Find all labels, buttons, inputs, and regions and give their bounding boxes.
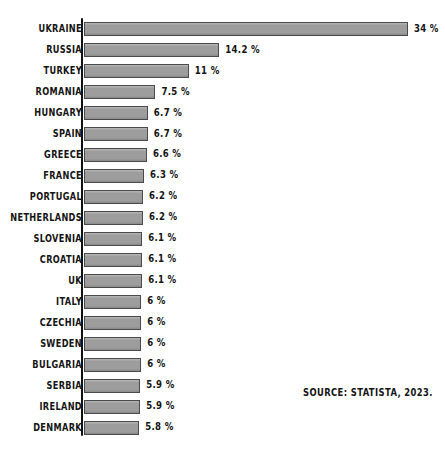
bar-turkey bbox=[84, 64, 189, 78]
bar-fill bbox=[84, 295, 141, 309]
bar-fill bbox=[84, 211, 143, 225]
bar-portugal bbox=[84, 190, 143, 204]
value-label: 14.2 % bbox=[225, 37, 260, 62]
source-annotation: SOURCE: STATISTA, 2023. bbox=[303, 386, 433, 398]
bar-fill bbox=[84, 316, 141, 330]
bar-fill bbox=[84, 64, 189, 78]
bar-fill bbox=[84, 148, 147, 162]
bar-netherlands bbox=[84, 211, 143, 225]
bar-hungary bbox=[84, 106, 148, 120]
bar-fill bbox=[84, 379, 140, 393]
bar-fill bbox=[84, 106, 148, 120]
bar-uk bbox=[84, 274, 142, 288]
bar-france bbox=[84, 169, 144, 183]
chart-plot-area: UKRAINE34 %RUSSIA14.2 %TURKEY11 %ROMANIA… bbox=[0, 18, 445, 418]
bar-fill bbox=[84, 274, 142, 288]
bar-chart: UKRAINE34 %RUSSIA14.2 %TURKEY11 %ROMANIA… bbox=[0, 0, 445, 458]
bar-fill bbox=[84, 232, 142, 246]
bar-fill bbox=[84, 85, 155, 99]
category-label: DENMARK bbox=[33, 415, 82, 441]
bar-fill bbox=[84, 253, 142, 267]
bar-fill bbox=[84, 421, 139, 435]
bar-fill bbox=[84, 337, 141, 351]
bar-bulgaria bbox=[84, 358, 141, 372]
bar-fill bbox=[84, 127, 148, 141]
bar-denmark bbox=[84, 421, 139, 435]
bar-greece bbox=[84, 148, 147, 162]
bar-italy bbox=[84, 295, 141, 309]
chart-row: DENMARK5.8 % bbox=[0, 417, 445, 438]
bar-sweden bbox=[84, 337, 141, 351]
value-label: 5.8 % bbox=[145, 415, 173, 440]
bar-serbia bbox=[84, 379, 140, 393]
bar-ukraine bbox=[84, 22, 408, 36]
value-label: 34 % bbox=[414, 16, 439, 41]
bar-ireland bbox=[84, 400, 140, 414]
bar-spain bbox=[84, 127, 148, 141]
bar-russia bbox=[84, 43, 219, 57]
bar-fill bbox=[84, 358, 141, 372]
bar-fill bbox=[84, 169, 144, 183]
bar-fill bbox=[84, 400, 140, 414]
chart-row: CROATIA6.1 % bbox=[0, 249, 445, 270]
bar-fill bbox=[84, 190, 143, 204]
value-label: 11 % bbox=[195, 58, 220, 83]
bar-romania bbox=[84, 85, 155, 99]
bar-fill bbox=[84, 22, 408, 36]
bar-czechia bbox=[84, 316, 141, 330]
bar-fill bbox=[84, 43, 219, 57]
bar-croatia bbox=[84, 253, 142, 267]
bar-slovenia bbox=[84, 232, 142, 246]
